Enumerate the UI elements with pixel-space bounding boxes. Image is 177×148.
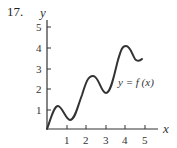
y-axis-label: y bbox=[38, 5, 46, 20]
function-graph: 1 2 3 4 5 1 2 3 4 5 y x y = f (x) bbox=[0, 0, 177, 148]
y-tick-label: 4 bbox=[36, 42, 42, 54]
x-axis-label: x bbox=[162, 121, 169, 136]
y-tick-label: 3 bbox=[36, 63, 42, 75]
y-tick-label: 1 bbox=[36, 104, 42, 116]
x-tick-label: 3 bbox=[103, 134, 109, 146]
x-tick-label: 4 bbox=[122, 134, 128, 146]
x-tick-label: 1 bbox=[64, 134, 70, 146]
x-tick-label: 5 bbox=[142, 134, 148, 146]
y-tick-label: 5 bbox=[36, 21, 42, 33]
curve-label: y = f (x) bbox=[117, 76, 154, 89]
y-tick-label: 2 bbox=[36, 83, 42, 95]
x-tick-label: 2 bbox=[83, 134, 89, 146]
